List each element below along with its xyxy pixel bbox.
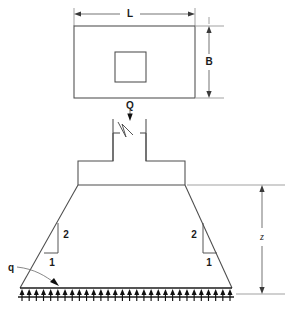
label-rise-right: 2 [191, 229, 197, 240]
label-load-Q: Q [126, 100, 134, 111]
l-arrowhead-left-icon [74, 11, 81, 16]
slope-triangle-left [44, 223, 58, 253]
pressure-arrowhead-icon [91, 289, 96, 295]
label-pressure-q: q [8, 262, 14, 273]
z-arrowhead-bottom-icon [259, 287, 264, 294]
pressure-arrowhead-icon [220, 289, 225, 295]
plan-inner-column-square [115, 52, 146, 82]
pressure-arrowhead-icon [206, 289, 211, 295]
pressure-arrowhead-icon [27, 289, 32, 295]
b-arrowhead-bottom-icon [206, 91, 211, 98]
label-rise-left: 2 [63, 229, 69, 240]
z-arrowhead-top-icon [259, 185, 264, 192]
pressure-arrowhead-icon [77, 289, 82, 295]
label-length-L: L [127, 8, 133, 19]
pressure-arrowhead-icon [127, 289, 132, 295]
plan-view: L B [74, 8, 224, 98]
pressure-arrowhead-icon [213, 289, 218, 295]
spread-line-left [20, 185, 78, 288]
pressure-arrowhead-icon [106, 289, 111, 295]
column-break-symbol-icon [118, 122, 133, 137]
footing-left-step [78, 133, 113, 185]
pressure-arrow-group [20, 289, 233, 301]
pressure-arrowhead-icon [63, 289, 68, 295]
pressure-arrowhead-icon [98, 289, 103, 295]
elevation-view: 2 1 2 1 q z [8, 119, 285, 301]
pressure-arrowhead-icon [41, 289, 46, 295]
pressure-arrowhead-icon [170, 289, 175, 295]
label-width-B: B [205, 56, 212, 67]
pressure-arrowhead-icon [184, 289, 189, 295]
pressure-arrowhead-icon [156, 289, 161, 295]
q-leader-arrowhead-icon [50, 278, 59, 286]
q-leader-line [17, 267, 55, 283]
footing-load-diagram: L B Q [0, 0, 293, 310]
pressure-arrowhead-icon [34, 289, 39, 295]
label-run-left: 1 [49, 257, 55, 268]
b-arrowhead-top-icon [206, 26, 211, 33]
pressure-arrowhead-icon [120, 289, 125, 295]
pressure-arrowhead-icon [199, 289, 204, 295]
pressure-arrowhead-icon [55, 289, 60, 295]
pressure-arrowhead-icon [228, 289, 233, 295]
pressure-arrowhead-icon [84, 289, 89, 295]
pressure-arrowhead-icon [113, 289, 118, 295]
pressure-arrowhead-icon [70, 289, 75, 295]
pressure-arrowhead-icon [134, 289, 139, 295]
l-arrowhead-right-icon [188, 11, 195, 16]
pressure-arrowhead-icon [149, 289, 154, 295]
pressure-arrowhead-icon [48, 289, 53, 295]
pressure-arrowhead-icon [192, 289, 197, 295]
plan-outer-rectangle [74, 26, 195, 98]
label-depth-z: z [259, 231, 264, 242]
pressure-arrowhead-icon [163, 289, 168, 295]
q-load-arrowhead-icon [127, 114, 132, 122]
pressure-arrowhead-icon [20, 289, 25, 295]
applied-load-group: Q [126, 100, 134, 121]
slope-triangle-right [203, 223, 217, 253]
label-run-right: 1 [206, 257, 212, 268]
pressure-arrowhead-icon [141, 289, 146, 295]
pressure-arrowhead-icon [177, 289, 182, 295]
footing-right-step [146, 133, 185, 185]
figure-root: L B Q [0, 0, 293, 310]
